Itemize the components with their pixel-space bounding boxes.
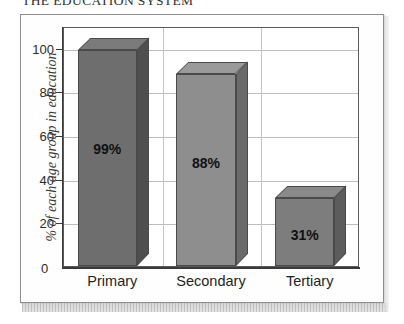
x-axis-category-label: Secondary bbox=[162, 273, 261, 289]
scan-artifact-right bbox=[384, 16, 389, 311]
bar-secondary[interactable]: 88% bbox=[176, 74, 235, 266]
y-axis-tick bbox=[56, 49, 62, 50]
y-axis-tick bbox=[56, 223, 62, 224]
category-divider bbox=[163, 28, 164, 266]
bar-value-label: 88% bbox=[176, 155, 235, 171]
category-divider bbox=[261, 28, 262, 266]
y-axis-tick bbox=[56, 180, 62, 181]
x-axis-category-label: Tertiary bbox=[260, 273, 359, 289]
x-axis-category-label: Primary bbox=[63, 273, 162, 289]
bar-front-face bbox=[78, 50, 137, 266]
plot-area: 99%88%31% bbox=[63, 27, 359, 267]
y-axis-zero-label: 0 bbox=[41, 261, 48, 276]
y-axis-title: % of each age group in education bbox=[44, 52, 60, 242]
y-axis-tick bbox=[56, 92, 62, 93]
bar-side-face bbox=[236, 62, 248, 266]
figure-frame: 20406080100 % of each age group in educa… bbox=[20, 14, 384, 303]
y-axis-tick bbox=[56, 136, 62, 137]
scan-artifact-bottom bbox=[22, 303, 388, 312]
bar-tertiary[interactable]: 31% bbox=[275, 198, 334, 266]
bar-value-label: 99% bbox=[78, 141, 137, 157]
bar-side-face bbox=[137, 38, 149, 266]
page-title: THE EDUCATION SYSTEM bbox=[22, 0, 194, 9]
x-axis-line bbox=[62, 267, 360, 269]
bar-side-face bbox=[334, 186, 346, 266]
bar-primary[interactable]: 99% bbox=[78, 50, 137, 266]
bar-value-label: 31% bbox=[275, 227, 334, 243]
